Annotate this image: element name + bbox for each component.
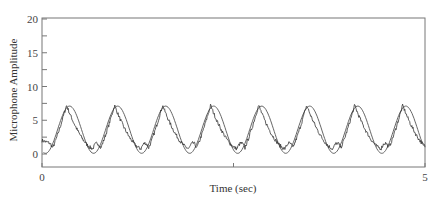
y-tick-label: 10 xyxy=(27,81,39,93)
plot-frame xyxy=(42,18,425,167)
measured-signal-line xyxy=(42,104,425,150)
series-layer xyxy=(42,104,425,153)
y-tick-label: 20 xyxy=(27,13,39,25)
plot-area: 0510152005 xyxy=(27,13,428,183)
x-axis-label: Time (sec) xyxy=(210,182,257,195)
y-tick-label: 15 xyxy=(27,47,39,59)
y-tick-label: 0 xyxy=(33,148,39,160)
y-tick-label: 5 xyxy=(33,114,39,126)
chart: 0510152005 Time (sec) Microphone Amplitu… xyxy=(0,0,440,202)
x-tick-label: 0 xyxy=(39,171,45,183)
x-tick-label: 5 xyxy=(422,171,428,183)
y-axis-label: Microphone Amplitude xyxy=(7,38,19,141)
